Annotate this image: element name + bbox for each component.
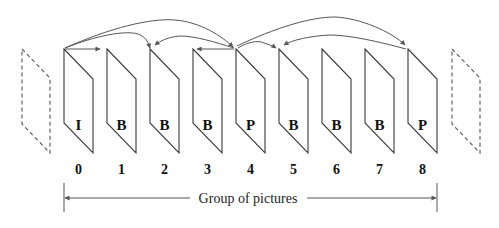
frame-index-label: 5 — [290, 162, 297, 177]
frame-type-label: I — [76, 117, 82, 133]
gop-bracket: Group of pictures — [64, 183, 437, 212]
reference-arrow-0-to-4 — [65, 20, 233, 48]
frame-index-label: 7 — [376, 162, 383, 177]
frame-7: B 7 — [365, 49, 394, 177]
frame-type-label: B — [288, 117, 298, 133]
frame-index-label: 8 — [419, 162, 426, 177]
frame-index-label: 4 — [247, 162, 254, 177]
frame-type-label: B — [116, 117, 126, 133]
frame-2: B 2 — [150, 49, 179, 177]
frame-index-label: 1 — [118, 162, 125, 177]
frame-type-label: P — [246, 117, 255, 133]
frame-type-label: B — [202, 117, 212, 133]
gop-label: Group of pictures — [199, 191, 298, 206]
frame-index-label: 2 — [161, 162, 168, 177]
frame-4: P 4 — [236, 49, 265, 177]
frame-6: B 6 — [322, 49, 351, 177]
reference-arrow-8-to-5 — [284, 35, 406, 49]
frame-index-label: 6 — [333, 162, 340, 177]
frame-3: B 3 — [193, 49, 222, 177]
frame-5: B 5 — [279, 49, 308, 177]
next-gop-ghost-frame — [452, 49, 480, 153]
frame-type-label: P — [418, 117, 427, 133]
frame-index-label: 3 — [204, 162, 211, 177]
frame-0: I 0 — [64, 49, 93, 177]
reference-arrow-4-to-8 — [237, 17, 405, 46]
frame-type-label: B — [374, 117, 384, 133]
frame-8: P 8 — [408, 49, 437, 177]
previous-gop-ghost-frame — [22, 49, 50, 153]
frame-type-label: B — [159, 117, 169, 133]
frame-1: B 1 — [107, 49, 136, 177]
reference-arrow-0-to-2 — [65, 33, 150, 48]
frame-type-label: B — [331, 117, 341, 133]
gop-diagram: I 0 B 1 B 2 B 3 P 4 B 5 B 6 B 7 P 8 — [0, 0, 499, 228]
frame-index-label: 0 — [75, 162, 82, 177]
